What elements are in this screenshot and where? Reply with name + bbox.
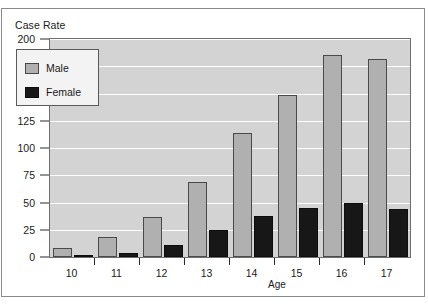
y-axis: 0255075100125150175200 bbox=[2, 9, 49, 259]
y-tick-mark bbox=[40, 202, 49, 203]
bar-female-age-17 bbox=[389, 209, 408, 257]
legend-label: Male bbox=[46, 62, 69, 74]
gridline bbox=[50, 66, 410, 67]
x-tick-mark bbox=[94, 258, 95, 265]
bar-female-age-12 bbox=[164, 245, 183, 257]
legend-swatch-icon bbox=[25, 63, 39, 74]
x-tick-label: 17 bbox=[381, 267, 393, 279]
y-tick-label: 125 bbox=[17, 115, 35, 127]
y-tick-mark bbox=[40, 120, 49, 121]
x-tick-label: 12 bbox=[156, 267, 168, 279]
legend-label: Female bbox=[46, 86, 81, 98]
x-tick-mark bbox=[184, 258, 185, 265]
x-tick-label: 10 bbox=[66, 267, 78, 279]
y-tick-mark bbox=[40, 257, 49, 258]
y-tick-label: 100 bbox=[17, 142, 35, 154]
gridline bbox=[50, 94, 410, 95]
bar-female-age-15 bbox=[299, 208, 318, 257]
chart-legend: MaleFemale bbox=[16, 49, 99, 106]
bar-male-age-15 bbox=[278, 95, 297, 257]
x-tick-mark bbox=[319, 258, 320, 265]
y-tick-mark bbox=[40, 229, 49, 230]
y-tick-mark bbox=[40, 175, 49, 176]
legend-swatch-icon bbox=[25, 87, 39, 98]
x-tick-label: 15 bbox=[291, 267, 303, 279]
bar-male-age-10 bbox=[53, 248, 72, 257]
gridline bbox=[50, 39, 410, 40]
legend-item-male: Male bbox=[25, 62, 69, 74]
x-tick-label: 14 bbox=[246, 267, 258, 279]
gridline bbox=[50, 148, 410, 149]
bar-female-age-13 bbox=[209, 230, 228, 257]
bar-female-age-16 bbox=[344, 203, 363, 258]
bar-male-age-17 bbox=[368, 59, 387, 257]
y-tick-mark bbox=[40, 39, 49, 40]
x-tick-mark bbox=[229, 258, 230, 265]
x-axis-title: Age bbox=[268, 279, 286, 290]
x-tick-label: 13 bbox=[201, 267, 213, 279]
chart-figure: Case Rate 0255075100125150175200 Age 101… bbox=[1, 8, 425, 297]
x-axis: Age 1011121314151617 bbox=[49, 258, 412, 288]
x-tick-mark bbox=[274, 258, 275, 265]
bar-female-age-11 bbox=[119, 253, 138, 257]
y-tick-label: 25 bbox=[23, 224, 35, 236]
legend-item-female: Female bbox=[25, 86, 81, 98]
bar-male-age-12 bbox=[143, 217, 162, 257]
bar-male-age-16 bbox=[323, 55, 342, 257]
gridline bbox=[50, 121, 410, 122]
x-tick-mark bbox=[139, 258, 140, 265]
bar-male-age-14 bbox=[233, 133, 252, 257]
y-tick-label: 0 bbox=[29, 251, 35, 263]
y-tick-label: 200 bbox=[17, 33, 35, 45]
bar-male-age-13 bbox=[188, 182, 207, 257]
bar-male-age-11 bbox=[98, 237, 117, 257]
x-tick-mark bbox=[364, 258, 365, 265]
bar-female-age-14 bbox=[254, 216, 273, 257]
x-tick-label: 16 bbox=[336, 267, 348, 279]
plot-area bbox=[49, 38, 411, 258]
bar-female-age-10 bbox=[74, 255, 93, 257]
gridline bbox=[50, 175, 410, 176]
y-tick-label: 50 bbox=[23, 197, 35, 209]
y-tick-label: 75 bbox=[23, 169, 35, 181]
x-tick-label: 11 bbox=[111, 267, 122, 279]
y-tick-mark bbox=[40, 148, 49, 149]
